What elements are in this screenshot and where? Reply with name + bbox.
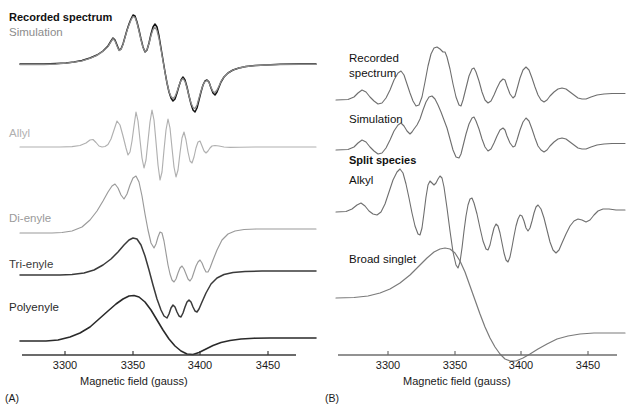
panel-a: Recorded spectrum Simulation Allyl Di-en… — [0, 0, 320, 411]
panel-a-tag: (A) — [5, 392, 19, 404]
panel-a-plot — [0, 0, 320, 411]
trace-tri-enyle — [20, 238, 316, 318]
panel-b: Recorded spectrum Simulation Split speci… — [320, 0, 627, 411]
label-tri-enyle: Tri-enyle — [9, 258, 53, 271]
trace-allyl — [20, 110, 316, 180]
panel-a-xtick-2: 3400 — [188, 359, 212, 371]
label-recorded-spectrum-b-line1: Recorded — [349, 52, 399, 65]
label-simulation-a: Simulation — [9, 26, 63, 39]
label-split-species: Split species — [349, 154, 416, 166]
panel-b-xtick-2: 3400 — [509, 359, 533, 371]
panel-a-axis-title: Magnetic field (gauss) — [80, 375, 188, 387]
label-di-enyle: Di-enyle — [9, 212, 51, 225]
panel-a-xtick-1: 3350 — [121, 359, 145, 371]
epr-figure: Recorded spectrum Simulation Allyl Di-en… — [0, 0, 627, 411]
trace-polyenyle — [20, 296, 316, 355]
panel-b-axis-title: Magnetic field (gauss) — [403, 375, 511, 387]
trace-simulation-b — [336, 96, 625, 158]
panel-b-xtick-0: 3300 — [376, 359, 400, 371]
label-recorded-spectrum-a: Recorded spectrum — [9, 11, 112, 23]
panel-b-xtick-3: 3450 — [576, 359, 600, 371]
trace-di-enyle — [20, 176, 316, 282]
label-broad-singlet: Broad singlet — [349, 253, 416, 266]
panel-a-xtick-3: 3450 — [256, 359, 280, 371]
label-polyenyle: Polyenyle — [9, 301, 59, 314]
panel-b-xtick-1: 3350 — [443, 359, 467, 371]
label-allyl: Allyl — [9, 127, 30, 140]
panel-b-tag: (B) — [325, 392, 339, 404]
label-recorded-spectrum-b-line2: spectrum — [349, 67, 396, 80]
label-alkyl: Alkyl — [349, 174, 373, 187]
panel-a-x-axis — [22, 351, 296, 355]
panel-b-x-axis — [338, 351, 617, 355]
panel-a-xtick-0: 3300 — [53, 359, 77, 371]
label-simulation-b: Simulation — [349, 113, 403, 126]
